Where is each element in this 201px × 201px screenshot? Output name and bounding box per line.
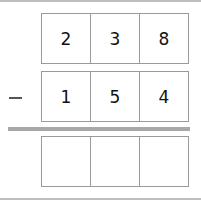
subtrahend-ones: 4 — [139, 71, 189, 122]
answer-hundreds-box[interactable] — [41, 136, 91, 187]
minuend-tens: 3 — [90, 13, 140, 64]
top-border — [0, 0, 201, 2]
minus-sign-icon — [9, 97, 22, 99]
result-line — [8, 127, 190, 131]
minuend-hundreds: 2 — [41, 13, 91, 64]
minuend-row: 2 3 8 — [41, 13, 189, 64]
subtrahend-tens: 5 — [90, 71, 140, 122]
subtrahend-row: 1 5 4 — [41, 71, 189, 122]
answer-row — [41, 136, 189, 187]
bottom-border — [0, 198, 201, 200]
answer-tens-box[interactable] — [90, 136, 140, 187]
minuend-ones: 8 — [139, 13, 189, 64]
subtrahend-hundreds: 1 — [41, 71, 91, 122]
answer-ones-box[interactable] — [139, 136, 189, 187]
